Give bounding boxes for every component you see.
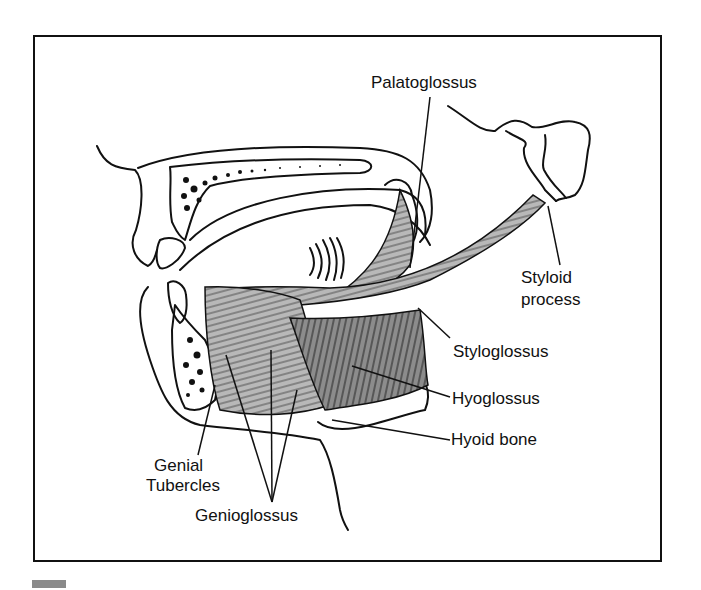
leader-hyoid bbox=[332, 420, 450, 440]
label-genioglossus: Genioglossus bbox=[195, 506, 298, 525]
rugae-3 bbox=[323, 240, 329, 280]
label-genial: Genial bbox=[154, 456, 203, 475]
label-palatoglossus: Palatoglossus bbox=[371, 73, 477, 92]
leader-genio-2 bbox=[271, 350, 272, 502]
upper-incisor bbox=[157, 238, 185, 268]
styloglossus-muscle bbox=[210, 195, 545, 306]
rugae-2 bbox=[316, 244, 322, 278]
label-styloid: Styloid bbox=[521, 268, 572, 287]
styloid-outline bbox=[506, 131, 556, 201]
mastoid bbox=[543, 135, 566, 198]
rugae-5 bbox=[337, 238, 344, 278]
leader-genial bbox=[198, 385, 215, 455]
label-process: process bbox=[521, 290, 581, 309]
gray-swatch bbox=[32, 580, 66, 588]
label-hyoid-bone: Hyoid bone bbox=[451, 430, 537, 449]
tongue-anatomy-illustration bbox=[0, 0, 701, 590]
label-hyoglossus: Hyoglossus bbox=[452, 389, 540, 408]
skull-base bbox=[448, 106, 590, 201]
leader-styloid bbox=[548, 206, 560, 265]
label-tubercles: Tubercles bbox=[146, 476, 220, 495]
label-styloglossus: Styloglossus bbox=[453, 342, 548, 361]
rugae-1 bbox=[310, 248, 314, 275]
rugae-4 bbox=[330, 238, 337, 280]
